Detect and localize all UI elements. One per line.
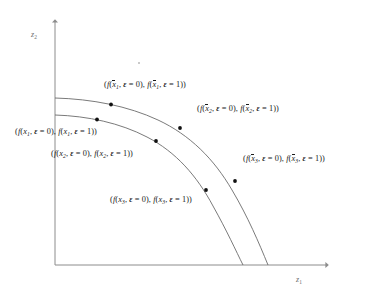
y-axis-label: z2 — [31, 31, 37, 40]
label-xbar2: (f(x2, ε = 0), f(x2, ε = 1)) — [197, 105, 279, 114]
x-axis-label: z1 — [296, 276, 302, 285]
y-axis-label-subscript: 2 — [34, 34, 37, 40]
data-point-x1 — [95, 118, 99, 122]
xbar-symbol: x — [112, 81, 116, 89]
x-axis-label-subscript: 1 — [299, 279, 302, 285]
label-xbar3: (f(x3, ε = 0), f(x3, ε = 1)) — [243, 155, 325, 164]
label-x2: (f(x2, ε = 0), f(x2, ε = 1)) — [51, 150, 133, 159]
data-point-xbar1 — [109, 103, 113, 107]
label-x3: (f(x3, ε = 0), f(x3, ε = 1)) — [110, 196, 192, 205]
data-point-x2 — [154, 139, 158, 143]
label-x1: (f(x1, ε = 0), f(x1, ε = 1)) — [15, 128, 97, 137]
label-xbar1: (f(x1, ε = 0), f(x1, ε = 1)) — [104, 81, 186, 90]
data-point-x3 — [204, 188, 208, 192]
data-point-xbar2 — [178, 126, 182, 130]
scan-speck — [138, 62, 140, 64]
inner-frontier-curve — [55, 115, 243, 265]
data-point-xbar3 — [233, 179, 237, 183]
figure-canvas: z2 z1 (f(x1, ε = 0), f(x1, ε = 1)) (f(x2… — [0, 0, 365, 298]
